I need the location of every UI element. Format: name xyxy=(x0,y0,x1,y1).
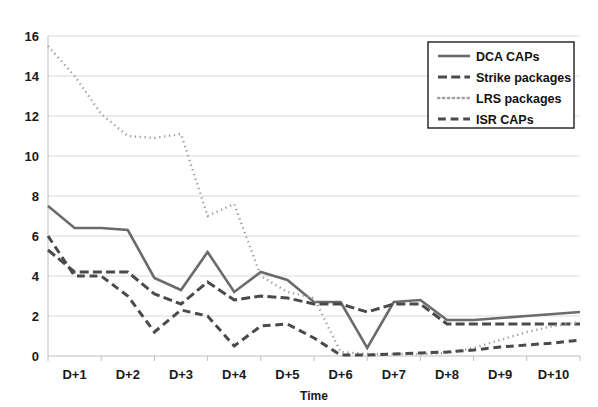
y-tick-label-12: 12 xyxy=(25,109,39,124)
x-tick-label-D10: D+10 xyxy=(538,367,569,382)
chart-legend: DCA CAPsStrike packagesLRS packagesISR C… xyxy=(428,42,574,128)
legend-label-isr-caps: ISR CAPs xyxy=(476,113,534,127)
legend-label-lrs-packages: LRS packages xyxy=(476,92,562,106)
y-tick-label-10: 10 xyxy=(25,149,39,164)
y-tick-label-14: 14 xyxy=(25,69,40,84)
x-axis-title: Time xyxy=(300,389,328,403)
x-tick-label-D7: D+7 xyxy=(382,367,406,382)
y-tick-label-8: 8 xyxy=(32,189,39,204)
y-tick-label-2: 2 xyxy=(32,309,39,324)
x-tick-label-D9: D+9 xyxy=(488,367,512,382)
x-tick-label-D1: D+1 xyxy=(62,367,86,382)
y-tick-label-4: 4 xyxy=(32,269,40,284)
x-tick-label-D4: D+4 xyxy=(222,367,247,382)
legend-label-dca-caps: DCA CAPs xyxy=(476,50,539,64)
y-tick-label-16: 16 xyxy=(25,29,39,44)
y-tick-label-0: 0 xyxy=(32,349,39,364)
legend-label-strike-packages: Strike packages xyxy=(476,71,571,85)
x-tick-label-D8: D+8 xyxy=(435,367,459,382)
y-tick-label-6: 6 xyxy=(32,229,39,244)
x-tick-label-D2: D+2 xyxy=(116,367,140,382)
x-tick-label-D5: D+5 xyxy=(275,367,299,382)
x-tick-label-D6: D+6 xyxy=(328,367,352,382)
line-chart: 1614121086420 D+1D+2D+3D+4D+5D+6D+7D+8D+… xyxy=(0,0,598,407)
x-tick-label-D3: D+3 xyxy=(169,367,193,382)
chart-container: 1614121086420 D+1D+2D+3D+4D+5D+6D+7D+8D+… xyxy=(0,0,598,407)
